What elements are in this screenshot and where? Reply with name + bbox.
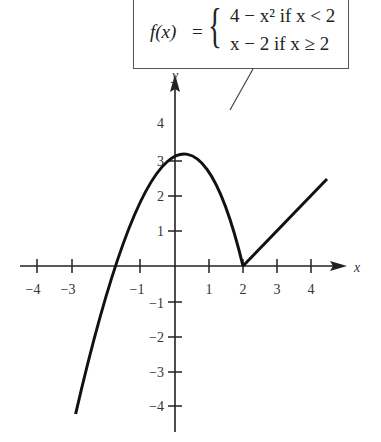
svg-text:2: 2 [240,282,247,297]
svg-text:−2: −2 [149,330,164,345]
callout-line [230,69,253,110]
graph: −4−3 −11 234 x 43 21 −1−2 −3−4 y [0,0,381,442]
svg-text:x: x [353,260,361,275]
linear-segment [243,179,327,266]
svg-text:−4: −4 [26,282,41,297]
svg-text:−1: −1 [130,282,145,297]
svg-text:4: 4 [157,116,164,131]
svg-text:−4: −4 [149,399,164,414]
svg-text:3: 3 [274,282,281,297]
svg-text:−3: −3 [149,365,164,380]
svg-text:−3: −3 [61,282,76,297]
svg-text:4: 4 [308,282,315,297]
svg-text:−1: −1 [149,296,164,311]
svg-text:y: y [170,68,179,83]
svg-text:1: 1 [157,224,164,239]
svg-text:2: 2 [157,189,164,204]
svg-text:1: 1 [206,282,213,297]
